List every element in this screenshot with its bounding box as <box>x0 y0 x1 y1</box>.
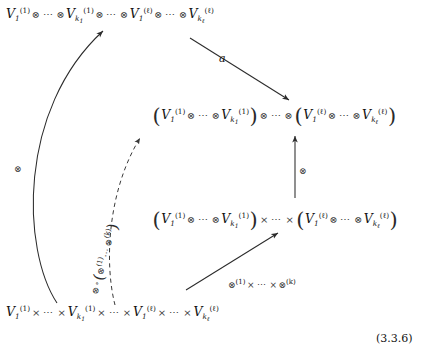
arrow-label-bottom-diagonal: ⊗(1)×⋯×⊗(k) <box>228 278 296 291</box>
top-row-expr: V1(1)⊗⋯⊗Vk1(1)⊗⋯⊗V1(ℓ)⊗⋯⊗Vkℓ(ℓ) <box>6 6 214 21</box>
arrow-layer <box>0 0 432 352</box>
tensor-symbol: ⊗ <box>299 166 307 176</box>
middle-lower-row: (V1(1)⊗⋯⊗Vk1(1))×⋯×(V1(ℓ)⊗⋯⊗Vkℓ(ℓ)) <box>152 210 398 231</box>
arrow-label-vertical-tensor: ⊗ <box>299 164 307 177</box>
arrow-label-a: a <box>219 52 226 65</box>
tensor-symbol: ⊗ <box>14 164 22 174</box>
arrow-label-curved-tensor: ⊗ <box>14 162 22 175</box>
middle-upper-expr: (V1(1)⊗⋯⊗Vk1(1))⊗⋯⊗(V1(ℓ)⊗⋯⊗Vkℓ(ℓ)) <box>152 107 397 122</box>
dashed-composite-arrow <box>109 138 140 305</box>
bottom-row: V1(1)×⋯×Vk1(1)×⋯×V1(ℓ)×⋯×Vkℓ(ℓ) <box>6 306 219 319</box>
curved-tensor-arrow <box>33 31 103 303</box>
equation-number-text: (3.3.6) <box>376 332 413 345</box>
top-row: V1(1)⊗⋯⊗Vk1(1)⊗⋯⊗V1(ℓ)⊗⋯⊗Vkℓ(ℓ) <box>6 8 214 21</box>
equation-number: (3.3.6) <box>376 332 413 345</box>
arrow-a <box>190 38 289 100</box>
bottom-row-expr: V1(1)×⋯×Vk1(1)×⋯×V1(ℓ)×⋯×Vkℓ(ℓ) <box>6 304 219 319</box>
diagram-figure: V1(1)⊗⋯⊗Vk1(1)⊗⋯⊗V1(ℓ)⊗⋯⊗Vkℓ(ℓ) (V1(1)⊗⋯… <box>0 0 432 352</box>
bottom-diagonal-label-text: ⊗(1)×⋯×⊗(k) <box>228 278 296 291</box>
dashed-composite-label-text: ⊗∘(⊗(1)⋯⊗(k)) <box>88 222 119 296</box>
arrow-label-dashed-composite: ⊗∘(⊗(1)⋯⊗(k)) <box>86 222 122 297</box>
label-a-text: a <box>219 52 226 65</box>
middle-upper-row: (V1(1)⊗⋯⊗Vk1(1))⊗⋯⊗(V1(ℓ)⊗⋯⊗Vkℓ(ℓ)) <box>152 106 397 127</box>
middle-lower-expr: (V1(1)⊗⋯⊗Vk1(1))×⋯×(V1(ℓ)⊗⋯⊗Vkℓ(ℓ)) <box>152 211 398 226</box>
